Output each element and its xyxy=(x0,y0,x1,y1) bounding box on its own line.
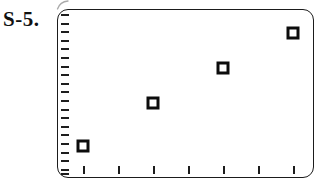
y-axis-tick xyxy=(61,117,69,119)
x-axis-tick xyxy=(223,166,225,174)
y-axis-tick xyxy=(61,48,69,50)
plot-surface xyxy=(58,10,313,177)
y-axis-tick xyxy=(61,40,69,42)
x-axis-tick xyxy=(83,166,85,174)
data-point-marker xyxy=(147,97,160,110)
figure-page: S-5. xyxy=(0,0,319,186)
y-axis-tick xyxy=(61,83,69,85)
data-point-marker xyxy=(217,62,230,75)
y-axis-tick xyxy=(61,91,69,93)
y-axis-tick xyxy=(61,126,69,128)
x-axis-tick xyxy=(258,166,260,174)
y-axis-tick xyxy=(61,100,69,102)
y-axis-tick xyxy=(61,57,69,59)
y-axis-tick xyxy=(61,31,69,33)
y-axis-tick xyxy=(61,169,69,171)
y-axis-tick xyxy=(61,173,69,175)
y-axis-tick xyxy=(61,109,69,111)
figure-label: S-5. xyxy=(3,7,39,31)
y-axis-tick xyxy=(61,152,69,154)
x-axis-tick xyxy=(293,166,295,174)
y-axis-tick xyxy=(61,23,69,25)
y-axis-tick xyxy=(61,143,69,145)
y-axis-tick xyxy=(61,160,69,162)
x-axis-tick xyxy=(188,166,190,174)
y-axis-tick xyxy=(61,14,69,16)
plot-frame xyxy=(57,9,314,178)
data-point-marker xyxy=(77,140,90,153)
data-point-marker xyxy=(287,27,300,40)
y-axis-tick xyxy=(61,134,69,136)
x-axis-tick xyxy=(153,166,155,174)
y-axis-tick xyxy=(61,66,69,68)
y-axis-tick xyxy=(61,74,69,76)
x-axis-tick xyxy=(118,166,120,174)
